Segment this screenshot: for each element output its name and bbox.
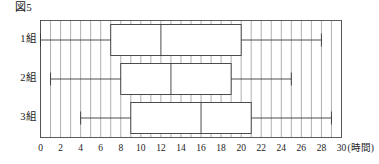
box-rect — [131, 103, 251, 134]
category-labels-group: 1組2組3組 — [20, 32, 36, 122]
category-label-2: 2組 — [20, 71, 36, 83]
x-tick-label: 18 — [216, 143, 226, 153]
x-tick-label: 16 — [196, 143, 206, 153]
x-tick-label: 6 — [98, 143, 103, 153]
x-tick-label: 0 — [38, 143, 43, 153]
x-axis-unit-label: (時間) — [348, 143, 374, 154]
x-tick-label: 30 — [337, 143, 347, 153]
x-tick-label: 28 — [317, 143, 327, 153]
x-tick-label: 22 — [256, 143, 266, 153]
box-rect — [121, 64, 231, 95]
x-axis-tick-labels-group: 024681012141618202224262830(時間) — [38, 143, 374, 154]
category-label-3: 3組 — [20, 110, 36, 122]
box-plot-chart: 1組2組3組 024681012141618202224262830(時間) — [0, 0, 379, 164]
box-plots-group — [41, 25, 332, 134]
x-tick-label: 10 — [136, 143, 146, 153]
box-plot-1 — [41, 25, 322, 56]
x-tick-label: 2 — [58, 143, 63, 153]
x-tick-label: 8 — [118, 143, 123, 153]
box-plot-3 — [81, 103, 332, 134]
figure-container: 図5 1組2組3組 024681012141618202224262830(時間… — [0, 0, 379, 164]
x-tick-label: 14 — [176, 143, 186, 153]
x-tick-label: 20 — [236, 143, 246, 153]
box-rect — [111, 25, 241, 56]
box-plot-2 — [51, 64, 292, 95]
x-tick-label: 24 — [277, 143, 287, 153]
x-tick-label: 26 — [297, 143, 307, 153]
x-tick-label: 12 — [156, 143, 166, 153]
category-label-1: 1組 — [20, 32, 36, 44]
x-tick-label: 4 — [78, 143, 83, 153]
